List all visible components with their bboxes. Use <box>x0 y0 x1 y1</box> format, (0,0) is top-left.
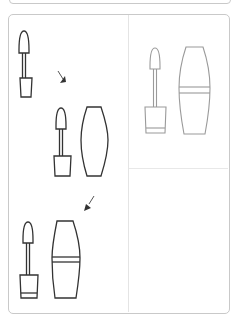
assembly-diagram <box>0 0 231 316</box>
final-wand-icon <box>145 48 166 133</box>
step-3-banded-cap-icon <box>52 221 80 298</box>
step-1-wand-bottle-icon <box>19 31 32 97</box>
arrow-down-right-icon <box>58 71 66 83</box>
step-2-wand-icon <box>54 108 71 176</box>
final-banded-cap-icon <box>179 47 210 134</box>
arrow-down-left-icon <box>84 196 94 211</box>
step-3-wand-icon <box>20 222 38 298</box>
step-2-cap-icon <box>81 107 108 176</box>
